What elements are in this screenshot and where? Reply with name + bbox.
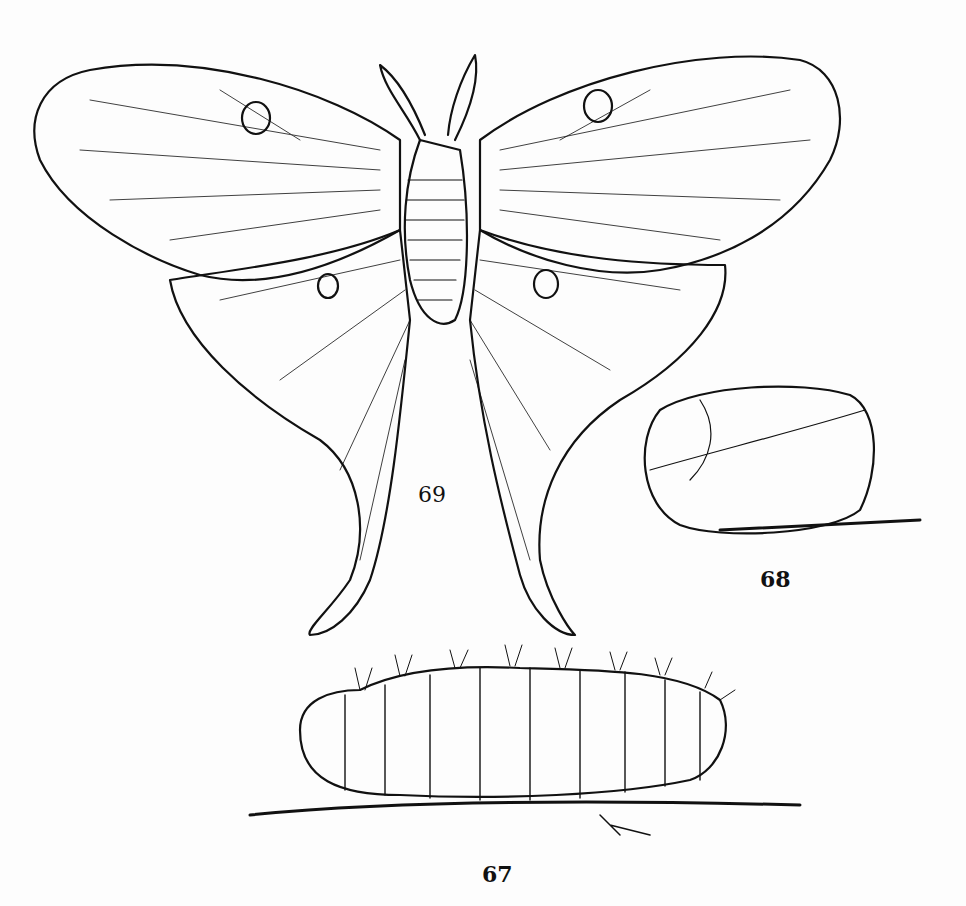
left-antenna bbox=[380, 65, 425, 140]
caterpillar-body bbox=[300, 667, 726, 797]
cocoon-twig bbox=[720, 520, 920, 530]
right-forewing bbox=[480, 57, 840, 273]
eyespot-right-forewing bbox=[584, 90, 612, 122]
illustration-plate: 69 68 67 bbox=[0, 0, 966, 906]
right-antenna bbox=[448, 55, 476, 140]
engraving-drawing bbox=[0, 0, 966, 906]
figure-label-69: 69 bbox=[418, 482, 446, 507]
eyespot-right-hindwing bbox=[534, 270, 558, 298]
figure-label-67: 67 bbox=[482, 861, 513, 887]
figure-label-68: 68 bbox=[760, 566, 791, 592]
moth-body bbox=[405, 140, 467, 324]
left-hindwing bbox=[170, 230, 410, 635]
cocoon bbox=[645, 387, 874, 534]
right-hindwing bbox=[470, 230, 725, 635]
caterpillar-twig bbox=[250, 802, 800, 815]
